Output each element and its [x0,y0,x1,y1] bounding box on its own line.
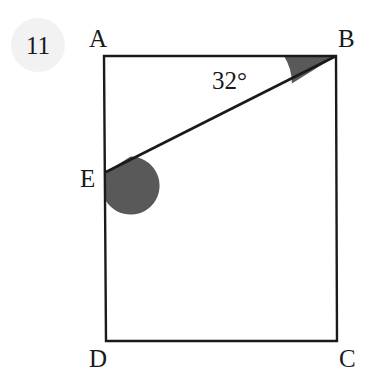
vertex-label-C: C [339,345,356,372]
angle-at-E-shaded-sector [106,157,160,215]
angle-measure-label-B: 32° [212,67,247,94]
vertex-label-D: D [89,345,107,372]
problem-number: 11 [26,32,50,59]
vertex-label-B: B [338,25,355,52]
vertex-label-A: A [89,25,107,52]
geometry-figure: 11 A B C D E 32° [0,0,369,381]
vertex-label-E: E [80,165,95,192]
diagram-canvas: 11 A B C D E 32° [0,0,369,381]
